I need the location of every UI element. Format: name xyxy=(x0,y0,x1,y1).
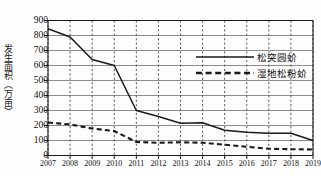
x-tick-label: 2011 xyxy=(128,160,144,168)
x-tick-label: 2015 xyxy=(217,160,233,168)
x-axis-tick-labels: 2007200820092010201120122013201420152016… xyxy=(0,158,321,176)
x-tick-label: 2012 xyxy=(150,160,166,168)
legend-label-2: 湿地松粉蚧 xyxy=(257,68,307,79)
x-tick-label: 2009 xyxy=(84,160,100,168)
vertical-gridlines xyxy=(48,21,313,156)
series-line-1 xyxy=(48,29,313,141)
x-tick-label: 2007 xyxy=(40,160,56,168)
x-tick-label: 2017 xyxy=(261,160,277,168)
x-tick-label: 2010 xyxy=(106,160,122,168)
x-tick-label: 2008 xyxy=(62,160,78,168)
y-axis-tick-marks xyxy=(44,21,48,156)
legend-label-1: 松突圆蚧 xyxy=(257,52,297,63)
x-tick-label: 2019 xyxy=(305,160,321,168)
plot-area: 松突圆蚧湿地松粉蚧 xyxy=(0,0,321,176)
x-tick-label: 2014 xyxy=(195,160,211,168)
x-tick-label: 2016 xyxy=(239,160,255,168)
x-tick-label: 2013 xyxy=(173,160,189,168)
x-tick-label: 2018 xyxy=(283,160,299,168)
line-chart: 发生面积（万亩） 0100200300400500600700800900 松突… xyxy=(0,0,321,176)
